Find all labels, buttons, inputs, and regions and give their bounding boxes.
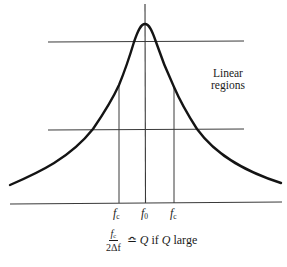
annotation-line-2: regions	[211, 79, 245, 91]
tick-subscript: c	[173, 212, 176, 221]
formula-numerator: fc	[109, 228, 119, 241]
upper-reference-line	[48, 41, 244, 42]
f0-center-line	[145, 4, 146, 203]
lower-reference-line	[48, 129, 244, 130]
formula-relation-symbol: ≏	[127, 233, 137, 248]
tick-label-fc-left: fc	[113, 207, 120, 221]
formula-fraction: fc 2Δf	[106, 228, 121, 253]
formula-q-1: Q	[140, 233, 149, 248]
linear-regions-annotation: Linear regions	[211, 67, 245, 91]
tick-subscript: 0	[144, 212, 148, 221]
tick-label-f0: f0	[141, 207, 148, 221]
formula-q-2: Q	[162, 233, 171, 248]
resonance-diagram	[0, 0, 287, 267]
q-factor-formula: fc 2Δf ≏ Q if Q large	[106, 228, 197, 253]
tick-label-fc-right: fc	[170, 207, 177, 221]
tick-subscript: c	[116, 212, 119, 221]
annotation-line-1: Linear	[211, 67, 245, 79]
formula-denominator: 2Δf	[106, 241, 121, 253]
formula-large: large	[173, 233, 197, 248]
numerator-subscript: c	[113, 232, 116, 239]
formula-if: if	[151, 233, 158, 248]
